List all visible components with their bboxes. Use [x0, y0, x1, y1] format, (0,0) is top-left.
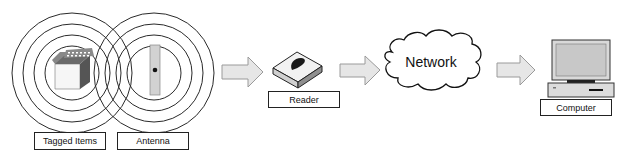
computer-label: Computer [540, 99, 612, 116]
network-label: Network [405, 54, 457, 70]
antenna-label: Antenna [117, 132, 189, 150]
arrow-right-icon [222, 57, 263, 87]
arrow-right-icon [497, 55, 535, 85]
reader-label: Reader [268, 91, 340, 108]
tagged-box-icon [52, 48, 94, 89]
cloud-icon: Network [385, 30, 481, 90]
arrow-right-icon [340, 56, 380, 85]
computer-icon [548, 40, 614, 97]
reader-device-icon [273, 52, 322, 88]
tagged-items-label: Tagged Items [34, 132, 106, 150]
antenna-icon [150, 45, 160, 95]
